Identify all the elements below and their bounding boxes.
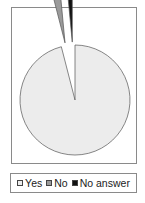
legend-swatch-no-answer — [72, 180, 78, 186]
legend-item-yes: Yes — [17, 177, 42, 189]
legend-swatch-yes — [17, 180, 23, 186]
legend-item-no: No — [46, 177, 67, 189]
legend-label-yes: Yes — [25, 177, 42, 189]
chart-legend: Yes No No answer — [10, 173, 137, 193]
pie-slice-no-answer — [67, 0, 72, 42]
pie-slice-yes — [20, 45, 130, 155]
legend-label-no-answer: No answer — [80, 177, 130, 189]
legend-swatch-no — [46, 180, 52, 186]
legend-item-no-answer: No answer — [72, 177, 130, 189]
legend-label-no: No — [54, 177, 67, 189]
pie-chart — [0, 0, 145, 170]
pie-slice-no — [51, 0, 65, 43]
